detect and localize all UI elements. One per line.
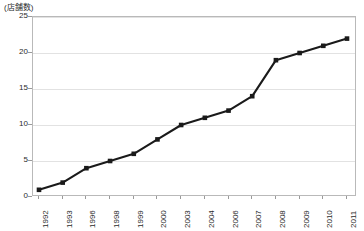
x-tick-mark-2008 [275,196,276,199]
y-tick-mark-10 [28,124,32,125]
y-tick-mark-15 [28,88,32,89]
y-tick-label-10: 10 [2,120,28,128]
x-tick-mark-1992 [38,196,39,199]
x-tick-mark-2003 [180,196,181,199]
x-tick-label-2008: 2008 [279,210,287,228]
x-tick-mark-1999 [133,196,134,199]
x-tick-mark-2007 [251,196,252,199]
y-axis-tick-labels: 0510152025 [0,16,364,196]
line-chart: (店舗数) 0510152025 19921993199619981999200… [0,0,364,231]
x-tick-label-2011: 2011 [350,211,358,228]
x-tick-label-2004: 2004 [208,210,216,228]
y-tick-mark-20 [28,52,32,53]
y-tick-label-25: 25 [2,12,28,20]
x-tick-mark-2009 [299,196,300,199]
x-tick-mark-2000 [156,196,157,199]
y-tick-mark-5 [28,160,32,161]
y-tick-label-15: 15 [2,84,28,92]
x-tick-label-2000: 2000 [160,210,168,228]
x-tick-mark-1998 [109,196,110,199]
x-tick-mark-2004 [204,196,205,199]
x-tick-label-1999: 1999 [137,210,145,228]
x-tick-mark-2006 [228,196,229,199]
x-axis-tick-labels: 1992199319961998199920002003200420062007… [32,200,356,231]
x-tick-label-1996: 1996 [89,210,97,228]
y-tick-label-20: 20 [2,48,28,56]
x-tick-mark-1996 [85,196,86,199]
x-tick-label-2007: 2007 [255,210,263,228]
y-tick-mark-25 [28,16,32,17]
x-tick-mark-1993 [62,196,63,199]
y-tick-label-5: 5 [2,156,28,164]
x-tick-label-1993: 1993 [66,210,74,228]
x-tick-mark-2010 [322,196,323,199]
x-tick-label-2003: 2003 [184,210,192,228]
x-tick-label-2010: 2010 [326,210,334,228]
x-tick-label-1992: 1992 [42,210,50,228]
x-tick-label-2006: 2006 [232,210,240,228]
x-tick-label-1998: 1998 [113,210,121,228]
x-tick-mark-2011 [346,196,347,199]
y-tick-label-0: 0 [2,192,28,200]
x-tick-label-2009: 2009 [303,210,311,228]
